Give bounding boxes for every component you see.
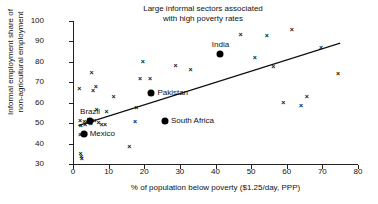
data-point: × [148, 74, 152, 81]
data-point: × [133, 118, 137, 125]
data-point-label: India [212, 41, 229, 49]
data-point: × [141, 58, 145, 65]
data-point-highlight [217, 50, 224, 57]
data-point: × [103, 121, 107, 128]
data-point: × [319, 43, 323, 50]
scatter-chart: Large informal sectors associated with h… [0, 0, 378, 204]
data-point: × [89, 69, 93, 76]
data-point: × [104, 107, 108, 114]
data-point: × [94, 83, 98, 90]
trend-line [0, 0, 378, 204]
data-point-label: Pakistan [157, 89, 188, 97]
data-point: × [290, 26, 294, 33]
data-point: × [238, 31, 242, 38]
data-point: × [80, 154, 84, 161]
data-point: × [138, 75, 142, 82]
data-point-highlight [80, 131, 87, 138]
data-point-highlight [148, 89, 155, 96]
data-point-highlight [87, 118, 94, 125]
data-point: × [305, 92, 309, 99]
data-point: × [253, 54, 257, 61]
data-point-label: South Africa [171, 117, 214, 125]
data-point: × [112, 92, 116, 99]
data-point: × [77, 85, 81, 92]
data-point: × [281, 99, 285, 106]
data-point: × [271, 62, 275, 69]
data-point-highlight [161, 118, 168, 125]
data-point: × [336, 69, 340, 76]
data-point: × [174, 62, 178, 69]
data-point: × [127, 143, 131, 150]
data-point-label: Mexico [90, 130, 115, 138]
data-point: × [134, 103, 138, 110]
data-point-label: Brazil [80, 108, 100, 116]
data-point: × [265, 31, 269, 38]
data-point: × [189, 66, 193, 73]
data-point: × [299, 101, 303, 108]
